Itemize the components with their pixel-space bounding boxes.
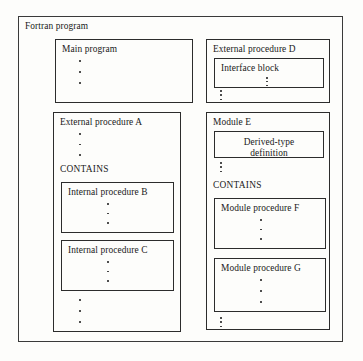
external-procedure-d-ellipsis-icon <box>219 90 223 100</box>
internal-procedure-b-label: Internal procedure B <box>68 188 148 197</box>
derived-type-definition-label: Derived-type definition <box>215 137 323 158</box>
module-procedure-g-label: Module procedure G <box>221 264 301 273</box>
internal-procedure-c-box: Internal procedure C <box>61 240 174 291</box>
external-procedure-d-box: External procedure D Interface block <box>206 39 330 103</box>
external-procedure-d-label: External procedure D <box>213 45 296 54</box>
derived-type-definition-box: Derived-type definition <box>214 131 324 158</box>
module-e-label: Module E <box>213 118 251 127</box>
diagram-canvas: Fortran program Main program External pr… <box>0 0 363 361</box>
external-procedure-a-contains-label: CONTAINS <box>60 165 109 174</box>
fortran-program-label: Fortran program <box>25 22 88 31</box>
module-procedure-g-box: Module procedure G <box>214 258 326 312</box>
external-procedure-a-trailing-ellipsis-icon <box>78 299 82 323</box>
module-procedure-f-ellipsis-icon <box>259 219 263 240</box>
external-procedure-a-box: External procedure A CONTAINS Internal p… <box>53 112 181 332</box>
module-procedure-f-box: Module procedure F <box>214 198 326 249</box>
external-procedure-a-label: External procedure A <box>60 118 142 127</box>
main-program-ellipsis-icon <box>78 60 82 84</box>
interface-block-label: Interface block <box>221 64 279 73</box>
internal-procedure-c-ellipsis-icon <box>106 261 110 282</box>
module-procedure-g-ellipsis-icon <box>259 279 263 303</box>
derived-type-definition-line2: definition <box>250 148 287 158</box>
module-e-contains-label: CONTAINS <box>213 181 262 190</box>
derived-type-definition-line1: Derived-type <box>244 137 295 147</box>
internal-procedure-c-label: Internal procedure C <box>68 246 148 255</box>
module-e-ellipsis-icon <box>219 162 223 172</box>
module-procedure-f-label: Module procedure F <box>221 204 299 213</box>
main-program-box: Main program <box>55 39 193 103</box>
internal-procedure-b-box: Internal procedure B <box>61 182 174 233</box>
external-procedure-a-ellipsis-icon <box>78 133 82 156</box>
interface-block-ellipsis-icon <box>265 77 269 86</box>
module-e-trailing-ellipsis-icon <box>219 317 223 327</box>
module-e-box: Module E Derived-type definition CONTAIN… <box>206 112 330 330</box>
internal-procedure-b-ellipsis-icon <box>106 203 110 224</box>
main-program-label: Main program <box>62 45 117 54</box>
interface-block-box: Interface block <box>214 58 324 88</box>
